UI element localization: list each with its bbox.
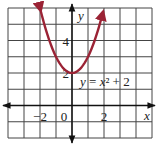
x-tick-label: 2 [101,109,108,124]
equation-label: y = x² + 2 [78,74,130,89]
grid-lines [8,8,152,138]
x-tick-label: 0 [61,109,68,124]
parabola-graph: −20224 y = x² + 2 x y [0,0,158,147]
y-tick-label: 4 [63,34,70,49]
y-axis-label: y [76,8,84,23]
x-tick-label: −2 [33,109,47,124]
x-axis-label: x [143,108,150,123]
